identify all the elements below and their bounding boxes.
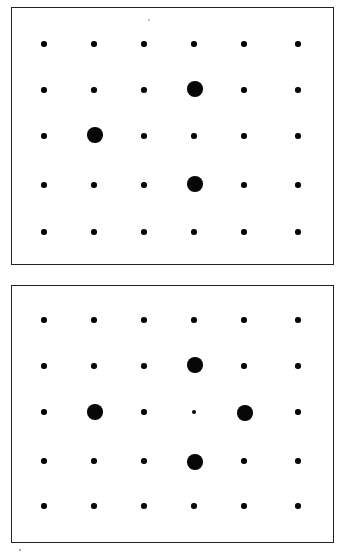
small-dot [295, 41, 300, 46]
small-dot [141, 229, 146, 234]
small-dot [41, 229, 46, 234]
small-dot [91, 363, 96, 368]
small-dot [41, 87, 46, 92]
panel-top-border [11, 7, 334, 265]
figure-root: Two-panel dot lattice diagram [0, 0, 346, 560]
small-dot [91, 182, 96, 187]
small-dot [295, 182, 300, 187]
small-dot [295, 133, 300, 138]
small-dot [241, 87, 246, 92]
small-dot [91, 503, 96, 508]
small-dot [141, 458, 146, 463]
small-dot [191, 317, 196, 322]
large-dot [187, 454, 203, 470]
small-dot [295, 87, 300, 92]
small-dot [141, 182, 146, 187]
small-dot [41, 317, 46, 322]
small-dot [295, 317, 300, 322]
small-dot [241, 133, 246, 138]
panel-top [11, 7, 334, 265]
small-dot [41, 458, 46, 463]
small-dot [241, 317, 246, 322]
small-dot [41, 503, 46, 508]
small-dot [141, 363, 146, 368]
large-dot [187, 357, 203, 373]
small-dot [91, 317, 96, 322]
small-dot [141, 503, 146, 508]
small-dot [41, 363, 46, 368]
panel-bottom-border [11, 285, 334, 543]
small-dot [295, 363, 300, 368]
small-dot [141, 317, 146, 322]
small-dot [295, 458, 300, 463]
small-dot [191, 41, 196, 46]
small-dot [241, 363, 246, 368]
small-dot [141, 409, 146, 414]
speck-top-panel [148, 19, 150, 21]
small-dot [241, 229, 246, 234]
small-dot [41, 182, 46, 187]
speck-bottom-left [19, 549, 21, 551]
small-dot [191, 229, 196, 234]
large-dot [87, 404, 103, 420]
small-dot [241, 503, 246, 508]
large-dot [187, 176, 203, 192]
small-dot [295, 229, 300, 234]
small-dot [91, 87, 96, 92]
small-dot [41, 41, 46, 46]
figure-title: Two-panel dot lattice diagram [0, 21, 1, 22]
small-dot [241, 458, 246, 463]
small-dot [91, 458, 96, 463]
small-dot [91, 229, 96, 234]
panel-bottom [11, 285, 334, 543]
small-dot [41, 133, 46, 138]
small-dot [141, 41, 146, 46]
small-dot [295, 503, 300, 508]
large-dot [87, 127, 103, 143]
small-dot [141, 87, 146, 92]
small-dot [41, 409, 46, 414]
small-dot [191, 133, 196, 138]
small-dot [295, 409, 300, 414]
small-dot [141, 133, 146, 138]
small-dot [241, 41, 246, 46]
small-dot [91, 41, 96, 46]
large-dot [187, 81, 203, 97]
small-dot [191, 503, 196, 508]
large-dot [237, 405, 253, 421]
small-dot [241, 182, 246, 187]
